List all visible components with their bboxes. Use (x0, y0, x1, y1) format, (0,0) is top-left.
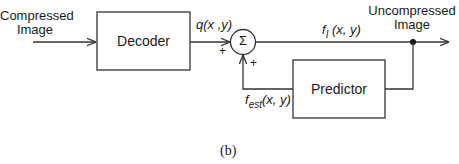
plus-top-sign: + (219, 44, 226, 58)
input-label: Compressed Image (0, 9, 70, 37)
output-label: Uncompressed Image (365, 4, 459, 32)
signal-f-label: fI (x, y) (322, 23, 361, 42)
signal-fest-args: (x, y) (262, 92, 291, 107)
plus-bottom-sign: + (250, 56, 257, 70)
feedback-to-predictor-line (385, 42, 413, 89)
signal-fest-sub: est (249, 99, 262, 110)
output-label-line2: Image (365, 18, 459, 32)
predictor-label: Predictor (293, 81, 385, 97)
input-label-line2: Image (0, 23, 70, 37)
signal-f-sub: I (326, 29, 329, 40)
decoder-label: Decoder (97, 33, 190, 49)
input-label-line1: Compressed (0, 9, 70, 23)
signal-q-label: q(x ,y) (196, 18, 232, 32)
output-label-line1: Uncompressed (365, 4, 459, 18)
summer-symbol: Σ (236, 34, 250, 48)
signal-fest-label: fest(x, y) (245, 93, 291, 112)
signal-f-args: (x, y) (332, 22, 361, 37)
figure-caption: (b) (220, 143, 236, 159)
